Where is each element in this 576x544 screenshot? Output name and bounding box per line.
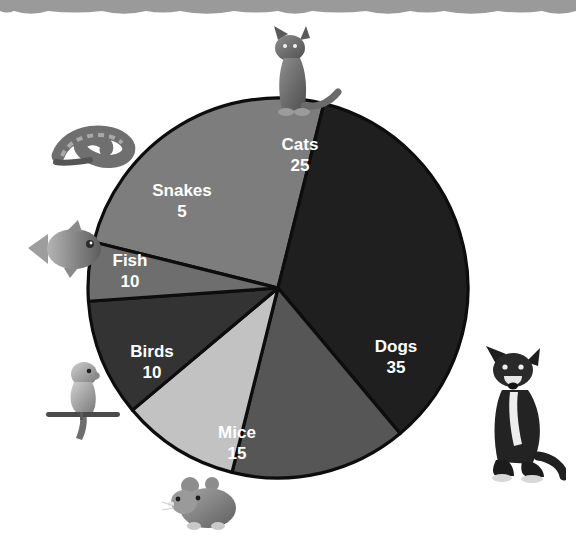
slice-label-name-snakes: Snakes [152, 181, 212, 200]
bird-photo [42, 352, 124, 442]
slice-label-name-birds: Birds [130, 342, 173, 361]
slice-label-value-dogs: 35 [387, 358, 406, 377]
fish-photo [22, 218, 108, 280]
mouse-photo [160, 472, 250, 534]
slice-label-value-cats: 25 [291, 156, 310, 175]
slice-label-value-fish: 10 [121, 272, 140, 291]
slice-label-value-mice: 15 [228, 444, 247, 463]
pie-slices [88, 98, 468, 478]
slice-label-name-cats: Cats [282, 135, 319, 154]
slice-label-name-dogs: Dogs [375, 337, 418, 356]
cat-photo [248, 22, 344, 122]
pet-ownership-pie-chart-figure: Cats25Dogs35Mice15Birds10Fish10Snakes5 [0, 0, 576, 544]
slice-label-value-snakes: 5 [177, 202, 186, 221]
snake-photo [46, 116, 142, 172]
dog-photo [466, 336, 566, 484]
slice-label-name-mice: Mice [218, 423, 256, 442]
slice-label-value-birds: 10 [143, 363, 162, 382]
slice-label-name-fish: Fish [113, 251, 148, 270]
